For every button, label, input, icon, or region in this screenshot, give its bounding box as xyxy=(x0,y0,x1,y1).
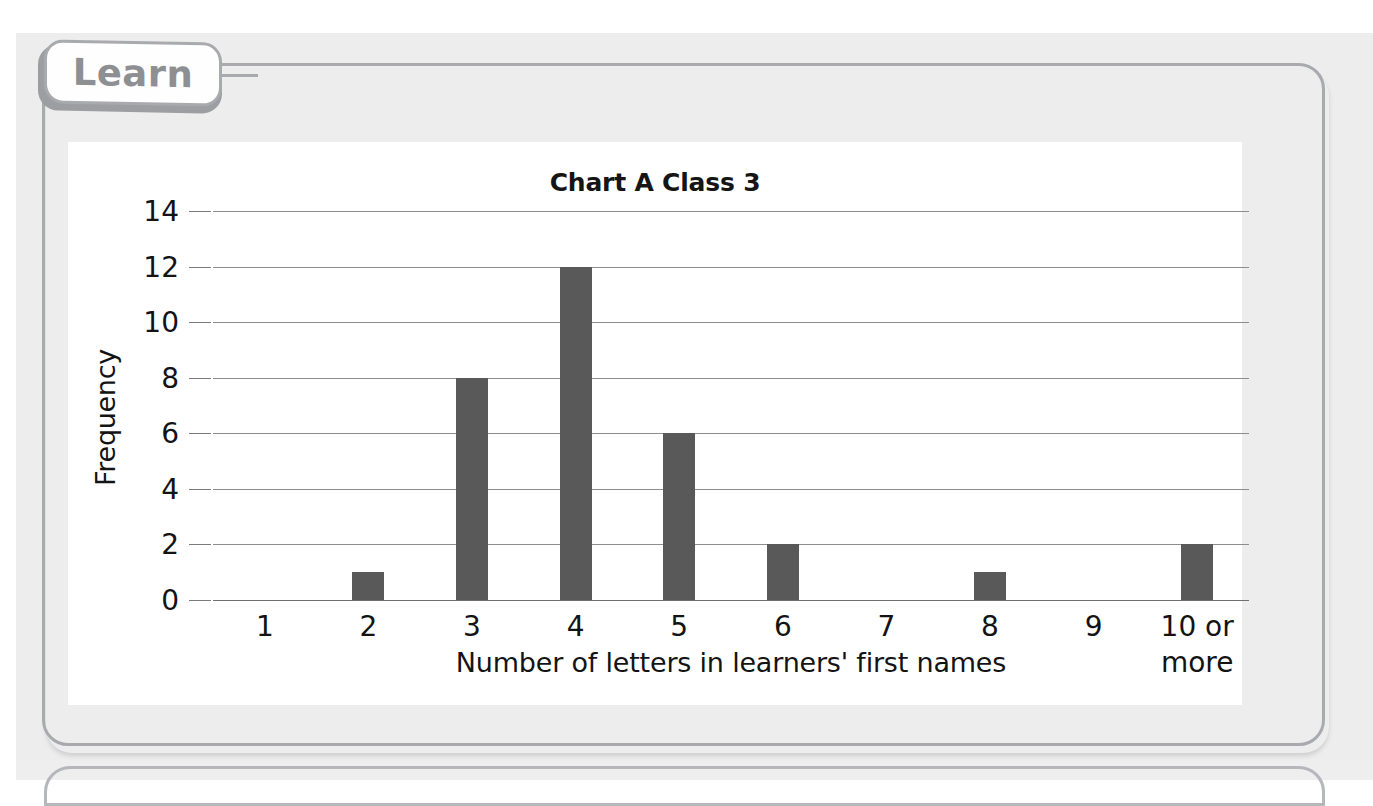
gridline xyxy=(213,600,1249,601)
bar xyxy=(352,572,384,600)
y-axis-tick-label: 12 xyxy=(109,250,179,283)
bar xyxy=(560,267,592,600)
x-axis-tick-label: 4 xyxy=(524,609,628,645)
y-axis-tick-label: 2 xyxy=(109,528,179,561)
x-axis-tick-label: 6 xyxy=(731,609,835,645)
y-axis-tick-label: 10 xyxy=(109,306,179,339)
y-axis-tick-mark xyxy=(189,544,211,545)
y-axis-tick-mark xyxy=(189,378,211,379)
x-axis-tick-label: 8 xyxy=(938,609,1042,645)
bar xyxy=(974,572,1006,600)
bar xyxy=(767,544,799,600)
x-axis-title: Number of letters in learners' first nam… xyxy=(213,647,1249,678)
y-axis-tick-label: 8 xyxy=(109,361,179,394)
bar xyxy=(663,433,695,600)
bar xyxy=(1181,544,1213,600)
learn-tab-label: Learn xyxy=(44,39,222,106)
next-section-panel xyxy=(44,766,1325,806)
chart-title: Chart A Class 3 xyxy=(68,168,1242,197)
plot-area xyxy=(213,211,1249,600)
y-axis-tick-label: 4 xyxy=(109,472,179,505)
learn-tab[interactable]: Learn xyxy=(34,38,224,114)
bar xyxy=(456,378,488,600)
x-axis-tick-label: 5 xyxy=(627,609,731,645)
x-axis-tick-label: 7 xyxy=(835,609,939,645)
y-axis-tick-label: 6 xyxy=(109,417,179,450)
y-axis-tick-label: 14 xyxy=(109,195,179,228)
x-axis-tick-label: 3 xyxy=(420,609,524,645)
y-axis-tick-mark xyxy=(189,322,211,323)
y-axis-tick-mark xyxy=(189,489,211,490)
y-axis-tick-label: 0 xyxy=(109,584,179,617)
tab-connector-line xyxy=(218,74,258,77)
y-axis-tick-mark xyxy=(189,211,211,212)
x-axis-tick-label: 2 xyxy=(317,609,421,645)
x-axis-tick-label: 9 xyxy=(1042,609,1146,645)
x-axis-tick-label: 1 xyxy=(213,609,317,645)
bar-series xyxy=(213,211,1249,600)
chart-card: Chart A Class 3 Frequency 02468101214 12… xyxy=(68,142,1242,705)
y-axis-tick-mark xyxy=(189,600,211,601)
y-axis-tick-mark xyxy=(189,267,211,268)
y-axis-tick-mark xyxy=(189,433,211,434)
